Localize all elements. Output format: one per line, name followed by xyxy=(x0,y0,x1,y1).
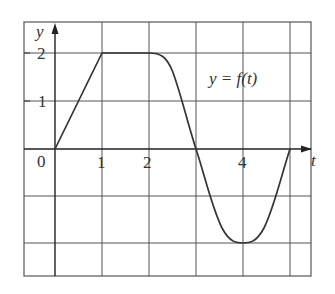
y-tick-2: 2 xyxy=(37,44,46,63)
graph-of-f: y t 2 1 0 1 2 4 y = f(t) xyxy=(0,0,335,294)
axes xyxy=(24,30,311,276)
y-tick-1: 1 xyxy=(38,92,47,111)
origin-label: 0 xyxy=(37,152,46,171)
x-tick-1: 1 xyxy=(97,153,106,172)
y-axis-label: y xyxy=(34,22,44,41)
y-ticks xyxy=(24,53,30,101)
equation-label: y = f(t) xyxy=(207,69,258,88)
y-axis-arrow-icon xyxy=(52,23,59,34)
t-axis-label: t xyxy=(311,151,317,170)
x-tick-4: 4 xyxy=(238,153,247,172)
x-tick-2: 2 xyxy=(143,153,152,172)
